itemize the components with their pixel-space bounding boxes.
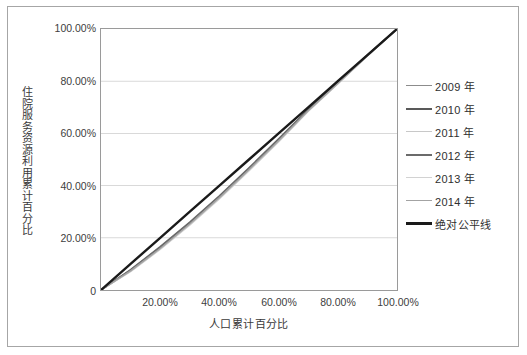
legend-item[interactable]: 2010 年 [406,97,518,120]
legend-label: 2013 年 [435,170,475,186]
series-lines [101,29,397,290]
legend-label: 2009 年 [435,78,475,94]
legend-swatch-icon [406,200,432,201]
legend-item[interactable]: 2014 年 [406,189,518,212]
y-tick-label: 40.00% [4,181,96,192]
legend-swatch-icon [406,222,432,225]
legend-label: 绝对公平线 [435,216,492,232]
legend-swatch-icon [406,177,432,178]
y-tick-label: 60.00% [4,128,96,139]
legend-swatch-icon [406,108,432,110]
x-tick-label: 20.00% [130,296,190,308]
legend-label: 2011 年 [435,124,475,140]
y-tick-label: 100.00% [4,23,96,34]
legend-label: 2010 年 [435,101,475,117]
legend-item[interactable]: 2012 年 [406,143,518,166]
legend-label: 2014 年 [435,193,475,209]
y-tick-label: 20.00% [4,233,96,244]
y-axis-title: 住院服务资源利用累计百分比 [19,36,35,286]
x-tick-label: 80.00% [308,296,368,308]
x-axis-title: 人口累计百分比 [100,315,398,331]
legend-swatch-icon [406,154,432,156]
series-line [101,29,397,290]
legend-swatch-icon [406,131,432,132]
legend-item[interactable]: 绝对公平线 [406,212,518,235]
y-axis-tick-labels: 100.00% 80.00% 60.00% 40.00% 20.00% 0 [0,0,96,355]
plot-svg [101,29,397,290]
x-tick-label: 100.00% [368,296,428,308]
y-tick-label: 80.00% [4,76,96,87]
chart-screenshot: 100.00% 80.00% 60.00% 40.00% 20.00% 0 住院… [0,0,527,355]
lorenz-curve-chart: 100.00% 80.00% 60.00% 40.00% 20.00% 0 住院… [0,0,527,355]
legend-item[interactable]: 2013 年 [406,166,518,189]
plot-area [100,28,398,291]
x-tick-label: 40.00% [189,296,249,308]
legend-label: 2012 年 [435,147,475,163]
legend-item[interactable]: 2011 年 [406,120,518,143]
x-tick-label: 60.00% [249,296,309,308]
legend-swatch-icon [406,85,432,86]
y-tick-label: 0 [4,286,96,297]
legend-item[interactable]: 2009 年 [406,74,518,97]
chart-legend: 2009 年2010 年2011 年2012 年2013 年2014 年绝对公平… [406,74,518,235]
